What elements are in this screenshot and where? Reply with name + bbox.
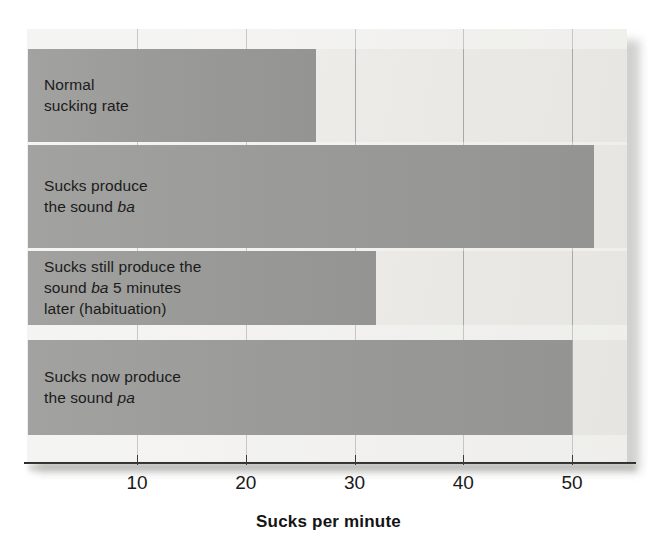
bar-label-line: the sound pa xyxy=(44,387,181,408)
chart-figure: Normalsucking rateSucks producethe sound… xyxy=(0,0,657,558)
x-tick-40 xyxy=(463,455,464,465)
bar-label-1: Normalsucking rate xyxy=(44,74,129,116)
plot-area: Normalsucking rateSucks producethe sound… xyxy=(27,29,627,463)
label-text: the sound xyxy=(44,198,117,215)
row-gap-band xyxy=(27,435,627,463)
x-tick-20 xyxy=(246,455,247,465)
emphasized-syllable: ba xyxy=(91,279,108,296)
x-tick-label-20: 20 xyxy=(216,472,276,494)
x-tick-10 xyxy=(137,455,138,465)
label-text: the sound xyxy=(44,389,117,406)
x-tick-label-30: 30 xyxy=(325,472,385,494)
row-gap-band xyxy=(27,325,627,340)
x-axis-line xyxy=(24,462,636,464)
x-tick-label-50: 50 xyxy=(542,472,602,494)
bar-label-line: later (habituation) xyxy=(44,298,201,319)
bar-label-line: sucking rate xyxy=(44,95,129,116)
label-text: Sucks now produce xyxy=(44,368,181,385)
emphasized-syllable: pa xyxy=(117,389,134,406)
bar-label-line: Sucks now produce xyxy=(44,366,181,387)
row-gap-band xyxy=(27,29,627,49)
label-text: sound xyxy=(44,279,91,296)
label-text: later (habituation) xyxy=(44,300,167,317)
bar-label-line: Normal xyxy=(44,74,129,95)
bar-label-3: Sucks still produce thesound ba 5 minute… xyxy=(44,256,201,319)
x-tick-30 xyxy=(355,455,356,465)
bar-label-4: Sucks now producethe sound pa xyxy=(44,366,181,408)
bar-label-line: Sucks produce xyxy=(44,175,148,196)
x-tick-label-40: 40 xyxy=(433,472,493,494)
label-text: sucking rate xyxy=(44,97,129,114)
bar-label-line: the sound ba xyxy=(44,196,148,217)
label-text: 5 minutes xyxy=(109,279,182,296)
bar-label-line: Sucks still produce the xyxy=(44,256,201,277)
bar-label-line: sound ba 5 minutes xyxy=(44,277,201,298)
label-text: Normal xyxy=(44,76,95,93)
x-tick-label-10: 10 xyxy=(107,472,167,494)
bar-label-2: Sucks producethe sound ba xyxy=(44,175,148,217)
label-text: Sucks still produce the xyxy=(44,258,201,275)
emphasized-syllable: ba xyxy=(117,198,134,215)
label-text: Sucks produce xyxy=(44,177,148,194)
x-tick-50 xyxy=(572,455,573,465)
x-axis-title: Sucks per minute xyxy=(0,512,657,532)
